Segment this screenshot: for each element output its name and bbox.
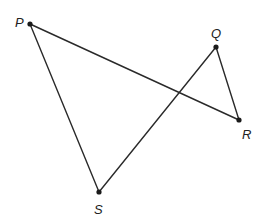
point-q <box>213 44 218 49</box>
segment-pr <box>30 24 239 120</box>
point-p <box>27 21 32 26</box>
geometry-diagram: P Q R S <box>0 0 264 220</box>
segment-qs <box>99 47 216 192</box>
segment-qr <box>216 47 239 120</box>
label-s: S <box>94 202 103 217</box>
segment-ps <box>30 24 99 192</box>
point-s <box>96 189 101 194</box>
point-r <box>236 117 241 122</box>
label-q: Q <box>211 26 221 41</box>
label-p: P <box>15 15 24 30</box>
label-r: R <box>242 127 251 142</box>
